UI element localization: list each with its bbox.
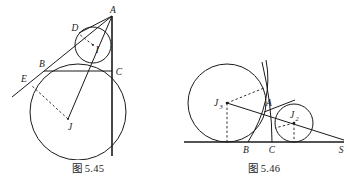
label-C: C <box>269 145 276 155</box>
line-J3-A-S <box>227 103 344 140</box>
label-J: J <box>68 122 73 132</box>
label-J3-subscript: 3 <box>218 103 223 110</box>
dashed-radius-I-D <box>79 34 93 45</box>
figure-5-46: A B C S J 3 J 2 图 5.46 <box>176 0 352 190</box>
caption-figure-5-46: 图 5.46 <box>176 160 352 175</box>
label-A: A <box>109 5 116 15</box>
point-J3 <box>226 102 229 105</box>
caption-figure-5-45: 图 5.45 <box>0 160 176 175</box>
point-I <box>92 44 94 46</box>
label-A: A <box>265 98 272 108</box>
figure-5-46-drawing: A B C S J 3 J 2 <box>176 0 352 160</box>
label-B: B <box>39 59 45 69</box>
label-J3: J <box>214 98 219 108</box>
line-E-B-A <box>12 16 112 97</box>
point-J2 <box>293 122 296 125</box>
figure-page: A B C D E I J 图 5.45 <box>0 0 352 190</box>
label-J2-subscript: 2 <box>295 115 299 122</box>
label-S: S <box>339 145 344 155</box>
label-D: D <box>71 23 79 33</box>
label-B: B <box>243 145 249 155</box>
label-C: C <box>116 67 123 77</box>
point-J <box>67 118 69 120</box>
figure-5-45: A B C D E I J 图 5.45 <box>0 0 176 190</box>
label-J2: J <box>290 110 295 120</box>
dashed-radius-J-E <box>31 85 68 119</box>
dashed-radius-J3 <box>227 88 264 103</box>
segment-A-to-D <box>79 16 112 33</box>
label-E: E <box>20 74 27 84</box>
figure-5-45-drawing: A B C D E I J <box>0 0 176 160</box>
